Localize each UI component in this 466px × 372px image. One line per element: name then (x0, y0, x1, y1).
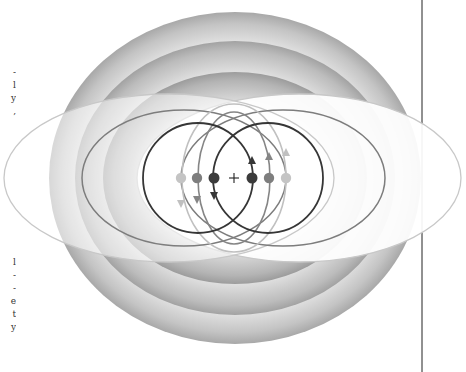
dipole-field-diagram: - l y , l - - e t y (0, 0, 466, 372)
margin-char: y (0, 321, 16, 334)
margin-char: - (0, 282, 16, 295)
margin-char: l (0, 79, 16, 92)
margin-char: y (0, 92, 16, 105)
margin-char: , (0, 105, 16, 118)
right-medium-dot (264, 173, 274, 183)
margin-text-top: - l y , (0, 66, 16, 118)
margin-text-bottom: l - - e t y (0, 256, 16, 334)
margin-char: t (0, 308, 16, 321)
left-light-dot (176, 173, 186, 183)
left-dark-dot (209, 173, 220, 184)
margin-char: - (0, 269, 16, 282)
margin-char: l (0, 256, 16, 269)
margin-char: - (0, 66, 16, 79)
margin-char: e (0, 295, 16, 308)
right-light-dot (281, 173, 291, 183)
left-medium-dot (192, 173, 202, 183)
right-dark-dot (247, 173, 258, 184)
